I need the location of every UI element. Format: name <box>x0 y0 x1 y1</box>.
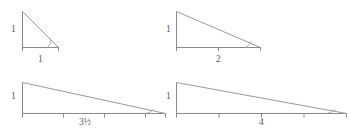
triangle-3-base-label: 3½ <box>79 118 91 128</box>
triangle-2-drawing <box>175 0 351 70</box>
triangle-panel-3: 1 3½ <box>0 70 175 140</box>
triangle-4-hypotenuse <box>177 83 347 114</box>
triangle-1-height-label: 1 <box>11 25 16 35</box>
triangle-1-hypotenuse <box>23 12 59 48</box>
triangle-panel-2: 1 2 <box>175 0 351 70</box>
triangle-1-drawing <box>0 0 175 70</box>
triangle-2-hypotenuse <box>177 12 261 48</box>
triangle-4-base-label: 4 <box>259 118 264 128</box>
triangles-figure: 1 1 1 2 <box>0 0 351 140</box>
triangle-1-base-label: 1 <box>38 55 43 65</box>
triangle-panel-4: 1 4 <box>175 70 351 140</box>
triangle-1-angle-arc <box>48 40 51 48</box>
triangle-2-height-label: 1 <box>166 25 171 35</box>
triangle-3-hypotenuse <box>23 83 166 114</box>
triangle-4-drawing <box>175 70 351 140</box>
triangle-panel-1: 1 1 <box>0 0 175 70</box>
triangle-2-base-label: 2 <box>216 55 221 65</box>
triangle-3-height-label: 1 <box>11 92 16 102</box>
triangle-3-drawing <box>0 70 175 140</box>
triangle-4-height-label: 1 <box>166 92 171 102</box>
